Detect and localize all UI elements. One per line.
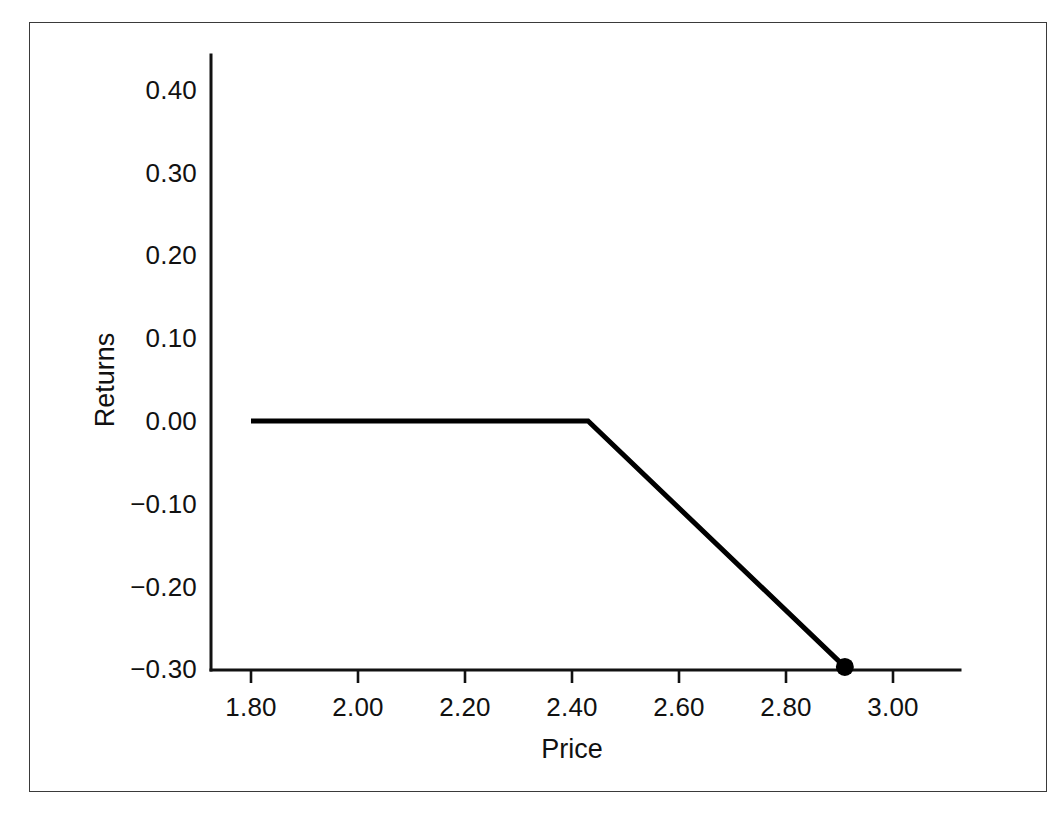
x-tick-marks	[251, 670, 893, 683]
y-tick-label: 0.30	[146, 157, 197, 188]
y-tick-label: −0.20	[130, 571, 197, 602]
y-tick-label: 0.00	[146, 406, 197, 437]
data-series-group	[251, 421, 854, 676]
x-axis-title: Price	[541, 734, 603, 765]
y-tick-label: 0.20	[146, 240, 197, 271]
x-tick-label: 2.20	[439, 692, 490, 723]
x-tick-label: 2.00	[332, 692, 383, 723]
y-axis-title: Returns	[90, 332, 121, 427]
returns-payoff-line	[251, 421, 845, 667]
y-tick-label: −0.10	[130, 488, 197, 519]
y-tick-label: −0.30	[130, 654, 197, 685]
x-tick-label: 2.40	[546, 692, 597, 723]
endpoint-markers	[836, 658, 854, 676]
figure-root: 0.400.300.200.100.00−0.10−0.20−0.30 1.80…	[0, 0, 1063, 818]
axes-group	[211, 55, 960, 670]
data-point-marker	[836, 658, 854, 676]
x-tick-label: 1.80	[225, 692, 276, 723]
x-tick-label: 3.00	[867, 692, 918, 723]
y-tick-label: 0.10	[146, 323, 197, 354]
x-tick-label: 2.80	[760, 692, 811, 723]
y-tick-label: 0.40	[146, 74, 197, 105]
x-tick-label: 2.60	[653, 692, 704, 723]
